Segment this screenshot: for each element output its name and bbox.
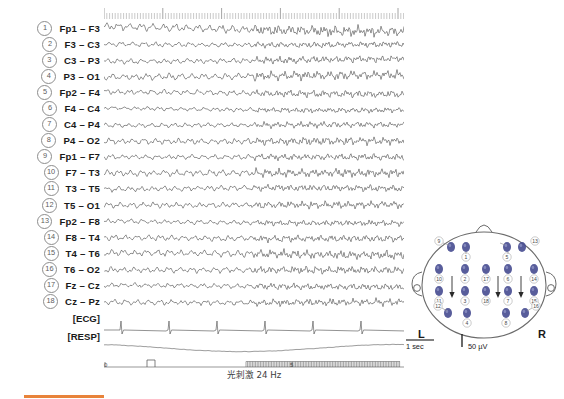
channel-name-label: Fz – Cz <box>66 280 100 291</box>
channel-name-label: P4 – O2 <box>63 135 100 146</box>
channel-name-label: Fp2 – F4 <box>59 87 100 98</box>
channel-row: 11T3 – T5 <box>0 181 104 197</box>
channel-name-label: P3 – O1 <box>63 71 100 82</box>
svg-text:9: 9 <box>438 238 441 244</box>
channel-number-badge: 7 <box>42 117 57 132</box>
channel-number-badge: 1 <box>37 21 52 36</box>
channel-number-badge: 3 <box>42 53 57 68</box>
electrode-16 <box>521 308 529 318</box>
channel-row: 16T6 – O2 <box>0 261 104 277</box>
channel-name-label: C4 – P4 <box>64 119 100 130</box>
channel-number-badge: 8 <box>41 133 56 148</box>
aux-channel-row: [RESP] <box>0 328 104 346</box>
channel-name-label: F4 – C4 <box>64 103 100 114</box>
svg-text:7: 7 <box>507 298 510 304</box>
electrode-15 <box>530 286 538 296</box>
montage-arrow-icon <box>518 276 523 298</box>
aux-channel-label: [ECG] <box>73 313 100 324</box>
scale-bar: 1 sec 50 µV <box>404 330 524 352</box>
channel-name-label: T3 – T5 <box>66 183 100 194</box>
channel-row: 1Fp1 – F3 <box>0 20 104 36</box>
eeg-trace-panel: 0 5 光刺激 24 Hz <box>104 0 404 399</box>
scale-bar-amplitude-label: 50 µV <box>468 342 487 351</box>
channel-number-badge: 11 <box>44 181 59 196</box>
channel-number-badge: 18 <box>43 294 58 309</box>
svg-text:4: 4 <box>466 320 469 326</box>
channel-name-label: F7 – T3 <box>66 167 100 178</box>
scale-bar-time-label: 1 sec <box>406 342 424 351</box>
channel-number-badge: 5 <box>37 85 52 100</box>
channel-name-label: Fp1 – F3 <box>59 23 100 34</box>
channel-row: 8P4 – O2 <box>0 133 104 149</box>
channel-row: 14F8 – T4 <box>0 229 104 245</box>
channel-row: 13Fp2 – F8 <box>0 213 104 229</box>
electrode-7 <box>504 286 512 296</box>
channel-row: 2F3 – C3 <box>0 36 104 52</box>
channel-row: 7C4 – P4 <box>0 117 104 133</box>
svg-text:3: 3 <box>464 298 467 304</box>
stimulation-label: 光刺激 24 Hz <box>104 368 404 380</box>
montage-arrow-icon <box>495 276 500 298</box>
electrode-13 <box>518 242 526 252</box>
electrode-5 <box>503 242 511 252</box>
electrode-17 <box>482 264 490 274</box>
electrode-18 <box>482 286 490 296</box>
channel-row: 17Fz – Cz <box>0 278 104 294</box>
electrode-2 <box>461 264 469 274</box>
channel-row: 6F4 – C4 <box>0 100 104 116</box>
time-ruler <box>104 8 404 20</box>
channel-name-label: Fp1 – F7 <box>59 151 100 162</box>
eeg-traces <box>104 20 404 320</box>
electrode-9 <box>447 242 455 252</box>
channel-number-badge: 14 <box>44 230 59 245</box>
channel-name-label: T5 – O1 <box>64 200 100 211</box>
electrode-6 <box>504 264 512 274</box>
bottom-caption-strip <box>110 390 410 399</box>
montage-arrow-icon <box>449 276 454 298</box>
svg-text:10: 10 <box>436 276 442 282</box>
svg-text:14: 14 <box>531 276 537 282</box>
channel-number-badge: 6 <box>42 101 57 116</box>
head-map-right-label: R <box>538 328 546 340</box>
electrode-1 <box>462 242 470 252</box>
aux-traces <box>104 320 404 356</box>
electrode-12 <box>444 308 452 318</box>
electrode-4 <box>463 308 471 318</box>
channel-row: 4P3 – O1 <box>0 68 104 84</box>
electrode-10 <box>435 264 443 274</box>
channel-row: 18Cz – Pz <box>0 294 104 310</box>
electrode-8 <box>502 308 510 318</box>
svg-text:8: 8 <box>505 320 508 326</box>
channel-row: 3C3 – P3 <box>0 52 104 68</box>
channel-number-badge: 12 <box>42 198 57 213</box>
channel-name-label: F8 – T4 <box>66 232 100 243</box>
channel-row: 5Fp2 – F4 <box>0 84 104 100</box>
channel-name-label: F3 – C3 <box>64 39 100 50</box>
channel-number-badge: 2 <box>42 37 57 52</box>
channel-row: 10F7 – T3 <box>0 165 104 181</box>
channel-name-label: T6 – O2 <box>64 264 100 275</box>
channel-name-label: C3 – P3 <box>64 55 100 66</box>
channel-name-label: Cz – Pz <box>65 296 100 307</box>
svg-text:1: 1 <box>465 254 468 260</box>
svg-text:16: 16 <box>533 303 539 309</box>
svg-text:6: 6 <box>507 276 510 282</box>
svg-text:5: 5 <box>506 254 509 260</box>
svg-text:12: 12 <box>435 303 441 309</box>
channel-name-label: Fp2 – F8 <box>59 216 100 227</box>
channel-row: 9Fp1 – F7 <box>0 149 104 165</box>
channel-number-badge: 10 <box>44 165 59 180</box>
channel-number-badge: 9 <box>37 149 52 164</box>
aux-channel-label: [RESP] <box>67 331 100 342</box>
channel-number-badge: 13 <box>37 214 52 229</box>
svg-text:18: 18 <box>483 298 489 304</box>
channel-name-label: T4 – T6 <box>66 248 100 259</box>
electrode-14 <box>530 264 538 274</box>
electrode-3 <box>461 286 469 296</box>
svg-text:2: 2 <box>464 276 467 282</box>
aux-channel-row: [ECG] <box>0 310 104 328</box>
channel-label-column: 1Fp1 – F32F3 – C33C3 – P34P3 – O15Fp2 – … <box>0 20 104 346</box>
svg-text:13: 13 <box>532 238 538 244</box>
bottom-accent-bar <box>24 395 104 398</box>
channel-row: 15T4 – T6 <box>0 245 104 261</box>
